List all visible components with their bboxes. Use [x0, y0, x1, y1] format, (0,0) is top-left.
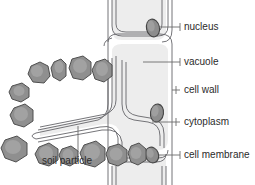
label-vacuole: vacuole [184, 56, 219, 67]
label-cell-membrane: cell membrane [184, 149, 250, 160]
wall-line-hair-tip [32, 133, 36, 139]
label-nucleus: nucleus [184, 21, 218, 32]
root-hair-cell-diagram: nucleus vacuole cell wall cytoplasm cell… [0, 0, 255, 185]
label-soil-particle: soil particle [42, 155, 92, 166]
label-cytoplasm: cytoplasm [184, 116, 229, 127]
label-cell-wall: cell wall [184, 84, 219, 95]
diagram-canvas: nucleus vacuole cell wall cytoplasm cell… [0, 0, 255, 185]
